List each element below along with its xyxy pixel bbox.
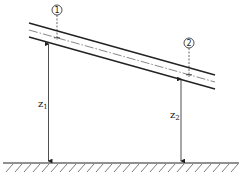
datum-ground	[3, 163, 239, 172]
ground-hatching	[6, 164, 238, 172]
z2-label: z2	[170, 109, 180, 122]
section-2-number: 2	[186, 39, 191, 48]
section-1-number: 1	[54, 6, 59, 15]
z1-label: z1	[38, 98, 48, 111]
pipe-elevation-diagram: 1 2 z1 z2	[0, 0, 249, 178]
elevation-z1: z1	[38, 44, 49, 161]
elevation-z2: z2	[170, 79, 181, 161]
section-2-marker: 2	[184, 38, 194, 77]
section-1-marker: 1	[52, 5, 62, 40]
